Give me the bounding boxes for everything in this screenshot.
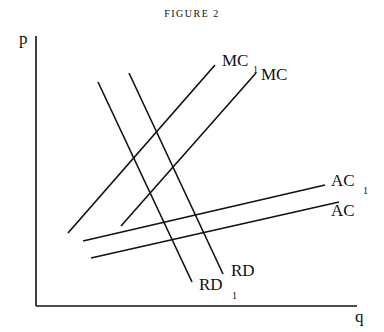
curve-rd	[129, 73, 223, 274]
label-rd: RD	[231, 262, 255, 279]
label-mc1-subscript: 1	[253, 65, 258, 75]
label-rd1-subscript: 1	[232, 291, 237, 301]
curve-mc1	[68, 65, 215, 233]
label-ac1-subscript: 1	[363, 186, 368, 196]
label-ac1: AC	[331, 172, 355, 189]
diagram-canvas	[0, 0, 384, 332]
label-mc: MC	[261, 66, 287, 83]
y-axis-label: p	[19, 30, 28, 47]
x-axis-label: q	[355, 308, 364, 325]
label-mc1: MC	[222, 52, 248, 69]
label-rd1: RD	[199, 276, 223, 293]
label-ac: AC	[331, 202, 355, 219]
